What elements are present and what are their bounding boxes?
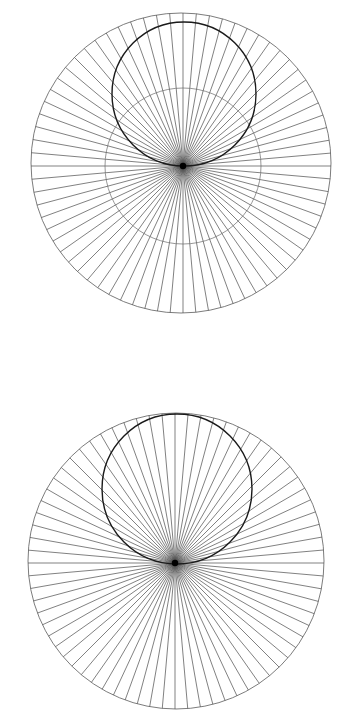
radial-ray <box>183 166 245 299</box>
radial-ray <box>175 418 214 563</box>
upper-radial-diagram-panel <box>0 0 345 360</box>
radial-ray <box>175 563 318 601</box>
figure-sheet <box>0 0 345 727</box>
radial-ray <box>32 166 183 179</box>
bold-circle <box>112 22 256 166</box>
radial-ray <box>120 166 183 300</box>
radial-ray <box>183 166 196 312</box>
radial-ray <box>183 103 318 166</box>
radial-ray <box>47 166 183 230</box>
radial-ray <box>175 563 309 626</box>
radial-ray <box>183 153 331 166</box>
radial-ray <box>143 18 183 166</box>
radial-ray <box>175 500 311 563</box>
radial-ray <box>162 563 175 708</box>
radial-ray <box>118 27 183 166</box>
hub-dot <box>180 163 186 169</box>
lower-hub-dot <box>172 560 178 566</box>
radial-ray <box>42 563 175 625</box>
lower-radial-diagram <box>0 360 345 727</box>
lower-radial-diagram-panel <box>0 360 345 727</box>
radial-ray <box>183 14 196 166</box>
radial-ray <box>175 524 319 563</box>
upper-hub-dot <box>180 163 186 169</box>
radial-ray <box>137 563 175 704</box>
radial-ray <box>183 166 330 179</box>
radial-ray <box>183 166 316 228</box>
radial-ray <box>175 413 188 563</box>
radial-ray <box>113 563 175 695</box>
radial-ray <box>112 428 175 563</box>
radial-ray <box>183 19 222 166</box>
hub-dot <box>172 560 178 566</box>
radial-ray <box>175 563 323 576</box>
radial-ray <box>183 127 327 166</box>
radial-ray <box>36 126 183 166</box>
radial-ray <box>170 166 183 313</box>
radial-ray <box>37 166 183 205</box>
radial-ray <box>28 550 175 563</box>
radial-ray <box>162 414 175 563</box>
radial-ray <box>175 563 213 704</box>
upper-ray-pencil <box>31 13 331 313</box>
upper-radial-diagram <box>0 0 345 360</box>
radial-ray <box>29 563 175 576</box>
radial-ray <box>32 525 175 563</box>
radial-ray <box>175 563 237 696</box>
radial-ray <box>183 28 247 166</box>
radial-ray <box>136 418 175 563</box>
radial-ray <box>41 500 175 563</box>
radial-ray <box>33 563 175 601</box>
radial-ray <box>31 153 183 166</box>
radial-ray <box>175 563 188 709</box>
radial-ray <box>170 13 183 166</box>
